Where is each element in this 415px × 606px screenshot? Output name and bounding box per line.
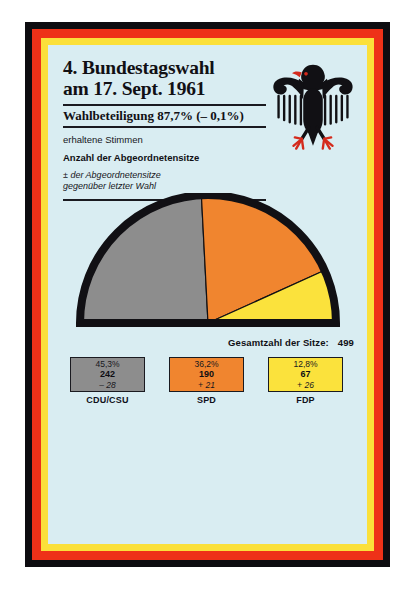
legend-percent-cdu-csu: 45,3%: [95, 359, 119, 370]
legend-label-fdp: FDP: [296, 395, 315, 405]
divider-top: [63, 104, 266, 106]
total-seats-line: Gesamtzahl der Sitze:499: [228, 337, 354, 348]
legend-item-fdp: 12,8% 67 + 26 FDP: [268, 357, 343, 405]
legend-box-cdu-csu: 45,3% 242 – 28: [70, 357, 145, 392]
legend-percent-spd: 36,2%: [194, 359, 218, 370]
legend-percent-fdp: 12,8%: [293, 359, 317, 370]
total-seats-value: 499: [338, 337, 354, 348]
legend-item-cdu-csu: 45,3% 242 – 28 CDU/CSU: [70, 357, 145, 405]
seat-delta-line-1: ± der Abgeordnetensitze: [63, 170, 263, 181]
legend-box-fdp: 12,8% 67 + 26: [268, 357, 343, 392]
german-federal-eagle-icon: [271, 55, 355, 150]
legend-label-spd: SPD: [197, 395, 216, 405]
page-title-line-1: 4. Bundestagswahl: [63, 57, 263, 78]
legend-seats-spd: 190: [199, 369, 214, 380]
legend-label-cdu-csu: CDU/CSU: [86, 395, 128, 405]
seat-count-label: Anzahl der Abgeordnetensitze: [63, 152, 263, 164]
turnout-text: Wahlbeteiligung 87,7% (– 0,1%): [63, 108, 263, 124]
legend-seats-cdu-csu: 242: [100, 369, 115, 380]
seat-delta-line-2: gegenüber letzter Wahl: [63, 181, 263, 192]
seat-distribution-chart: [72, 193, 344, 333]
poster-canvas: 4. Bundestagswahl am 17. Sept. 1961 Wahl…: [48, 45, 367, 544]
total-seats-label: Gesamtzahl der Sitze:: [228, 337, 329, 348]
legend-box-spd: 36,2% 190 + 21: [169, 357, 244, 392]
legend-delta-cdu-csu: – 28: [99, 380, 116, 391]
legend-item-spd: 36,2% 190 + 21 SPD: [169, 357, 244, 405]
divider-middle: [63, 126, 266, 128]
election-poster: 4. Bundestagswahl am 17. Sept. 1961 Wahl…: [25, 22, 390, 567]
legend-delta-fdp: + 26: [297, 380, 314, 391]
frame-band-red: 4. Bundestagswahl am 17. Sept. 1961 Wahl…: [32, 29, 383, 560]
votes-received-label: erhaltene Stimmen: [63, 134, 263, 146]
headline-block: 4. Bundestagswahl am 17. Sept. 1961 Wahl…: [63, 57, 263, 201]
page-title-line-2: am 17. Sept. 1961: [63, 78, 263, 99]
legend-delta-spd: + 21: [198, 380, 215, 391]
frame-band-yellow: 4. Bundestagswahl am 17. Sept. 1961 Wahl…: [41, 38, 374, 551]
legend-seats-fdp: 67: [300, 369, 310, 380]
seat-delta-legend: ± der Abgeordnetensitze gegenüber letzte…: [63, 170, 263, 192]
party-legend: 45,3% 242 – 28 CDU/CSU 36,2% 190 + 21 SP…: [70, 357, 343, 405]
